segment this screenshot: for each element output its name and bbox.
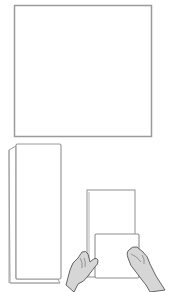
folding-illustration [0, 0, 169, 292]
hands-folding-sheet [66, 190, 165, 292]
folded-strip [9, 144, 61, 283]
square-sheet [15, 6, 152, 137]
